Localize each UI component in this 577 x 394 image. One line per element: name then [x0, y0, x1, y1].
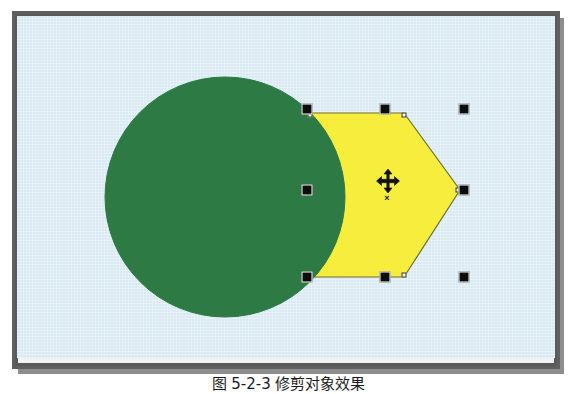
handle-middle-right[interactable] — [459, 185, 470, 196]
node-top-right[interactable] — [402, 113, 407, 118]
handle-bottom-right[interactable] — [459, 272, 470, 283]
move-cursor-icon — [375, 168, 401, 194]
figure-container: × 图 5-2-3 修剪对象效果 — [0, 0, 577, 394]
handle-middle-left[interactable] — [302, 185, 313, 196]
figure-caption: 图 5-2-3 修剪对象效果 — [0, 376, 577, 394]
drawing-canvas[interactable] — [17, 16, 555, 358]
handle-top-center[interactable] — [380, 104, 391, 115]
handle-top-left[interactable] — [302, 104, 313, 115]
handle-top-right[interactable] — [459, 104, 470, 115]
node-bottom-right[interactable] — [402, 273, 407, 278]
handle-bottom-center[interactable] — [380, 272, 391, 283]
handle-bottom-left[interactable] — [302, 272, 313, 283]
move-cursor-badge: × — [384, 194, 389, 203]
